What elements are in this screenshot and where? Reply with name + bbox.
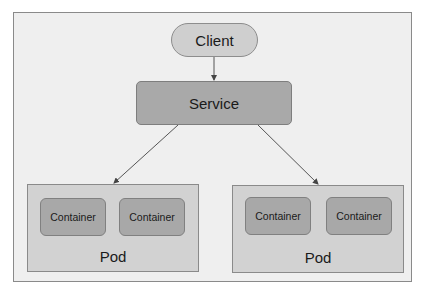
container-label: Container bbox=[336, 210, 382, 222]
pod-label: Pod bbox=[28, 248, 198, 265]
container-label: Container bbox=[50, 211, 96, 223]
container-node: Container bbox=[326, 197, 392, 235]
client-node: Client bbox=[171, 23, 258, 57]
service-node: Service bbox=[136, 81, 292, 125]
pod-label: Pod bbox=[233, 249, 403, 266]
pod-right: Container Container Pod bbox=[232, 185, 404, 273]
container-label: Container bbox=[129, 211, 175, 223]
container-node: Container bbox=[119, 198, 185, 236]
container-label: Container bbox=[255, 210, 301, 222]
service-label: Service bbox=[189, 95, 239, 112]
pod-left: Container Container Pod bbox=[27, 184, 199, 272]
container-node: Container bbox=[40, 198, 106, 236]
client-label: Client bbox=[195, 32, 233, 49]
container-node: Container bbox=[245, 197, 311, 235]
